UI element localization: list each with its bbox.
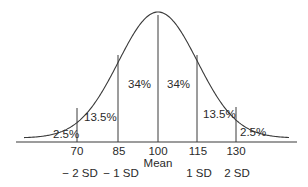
tick-label-100: 100 (148, 145, 167, 157)
region-label-minus-1sd-to-mean: 34% (128, 78, 151, 90)
tick-label-130: 130 (226, 145, 245, 157)
bell-curve (24, 12, 289, 138)
mean-label: Mean (144, 157, 173, 169)
region-label-right-tail: 2.5% (240, 126, 266, 138)
sd-label-minus-2: − 2 SD (62, 167, 97, 179)
region-label-minus-2sd-to-minus-1sd: 13.5% (84, 111, 117, 123)
sd-label-plus-2: 2 SD (224, 167, 250, 179)
region-label-mean-to-plus-1sd: 34% (167, 78, 190, 90)
region-label-plus-1sd-to-plus-2sd: 13.5% (203, 108, 236, 120)
region-label-left-tail: 2.5% (53, 128, 79, 140)
tick-label-85: 85 (113, 145, 126, 157)
tick-label-115: 115 (189, 145, 207, 157)
tick-label-70: 70 (71, 145, 84, 157)
sd-label-plus-1: 1 SD (186, 167, 212, 179)
sd-label-minus-1: − 1 SD (103, 167, 138, 179)
normal-distribution-chart: 2.5% 13.5% 34% 34% 13.5% 2.5% 70 85 100 … (0, 0, 308, 187)
